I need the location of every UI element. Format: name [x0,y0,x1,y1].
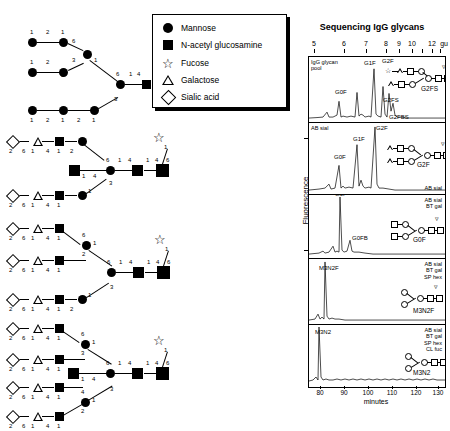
sialic-acid-residue [6,222,20,236]
x-tick-label: 80 [316,389,323,396]
sialic-acid-residue [6,254,20,268]
legend-label: N-acetyl glucosamine [181,41,262,50]
glycan-structure-4: 2 6 1 4 1 2 6 1 4 1 6 1 3 [0,314,185,430]
gu-tick-label: 8 [384,40,388,47]
gu-tick-label: 5 [312,40,316,47]
glcnac-icon [398,81,405,88]
glcnac-residue [157,266,170,279]
sialic-acid-residue [6,189,20,203]
mannose-residue [106,369,115,378]
legend-label: Mannose [181,24,216,33]
glycan-structure-2: 2 6 1 4 1 2 2 6 1 4 1 1 3 [0,126,185,210]
glcnac-icon [397,158,404,165]
gu-axis: 5 6 7 8 9 10 12 gu [308,41,444,55]
peak-label-g1f: G1F [364,60,376,66]
glcnac-icon [397,145,404,152]
x-axis: 80 90 100 110 120 130 minutes [308,386,444,406]
n-acetyl-glucosamine-icon [162,39,174,51]
x-tick-label: 130 [433,389,444,396]
glcnac-residue [132,368,143,379]
legend-item-glcnac: N-acetyl glucosamine [162,38,262,52]
glcnac-residue [142,80,151,89]
peak-label-g1f: G1F [353,136,365,142]
x-tick-label: 90 [340,389,347,396]
peak-label-g0f: G0F [334,154,346,160]
galactose-residue [33,224,43,233]
gu-tick-label: 10 [408,40,416,47]
galactose-residue [33,191,43,200]
chromatogram-title: Sequencing IgG glycans [294,22,450,32]
glcnac-residue [55,355,64,364]
glcnac-icon [436,295,443,302]
galactose-residue [33,383,43,392]
peak-label-g2fs: G2FS [383,97,399,103]
panel-igg-glycan-pool: IgG glycan pool G0F G1F G2F G2FS G2FBS ☆ [309,57,445,123]
x-axis-unit: minutes [308,398,444,405]
chromatogram-panel: Sequencing IgG glycans 5 6 7 8 9 10 12 g… [294,0,450,431]
galactose-residue [33,324,43,333]
sialic-acid-residue [6,381,20,395]
glcnac-icon [440,359,445,366]
mannose-residue [81,340,90,349]
bisecting-glcnac-residue [69,165,80,176]
mannose-residue [107,268,116,277]
glcnac-residue [55,412,64,421]
galactose-residue [33,412,43,421]
glcnac-icon [444,75,445,82]
sialic-acid-residue [6,410,20,424]
glcnac-residue [156,164,169,177]
cartoon-label: G2FS [421,85,438,92]
sialic-acid-icon [162,91,174,103]
peak-label-m3n2: M3N2 [315,329,331,335]
bisecting-glcnac-residue [68,368,79,379]
gu-tick-label: 9 [397,40,401,47]
glcnac-residue [55,191,64,200]
fucose-icon: ▿ [435,215,439,222]
panel-ab-sial-bt-gal-sp-hex-cl-fuc: AB sial BT gal SP hex CL fuc M3N2 [309,325,445,385]
fucose-icon: ▿ [434,283,438,290]
mannose-residue [28,106,37,115]
symbol-legend: Mannose N-acetyl glucosamine ☆ Fucose Ga… [152,14,287,108]
chromatogram-panels: IgG glycan pool G0F G1F G2F G2FS G2FBS ☆ [308,56,446,388]
fucose-residue: ☆ [152,131,165,144]
cartoon-label: G0F [413,236,426,243]
glcnac-residue [55,295,64,304]
glcnac-icon [407,68,414,75]
peak-label-g2f: G2F [376,125,388,131]
panel-ab-sial-bt-gal: AB sial BT gal G0F G0FB [309,195,445,259]
glycan-structures-panel: 1 2 1 6 1 2 1 3 1 1 [0,0,290,431]
glcnac-residue [133,267,144,278]
fucose-icon: ▿ [441,140,445,147]
x-tick-label: 110 [387,389,397,396]
glycan-cartoon: ▿ [387,143,443,169]
mannose-residue [28,38,37,47]
legend-item-mannose: Mannose [162,21,216,35]
galactose-icon [162,74,174,86]
fucose-icon: ☆ [162,57,174,69]
mannose-residue [83,50,92,59]
mannose-residue [59,106,68,115]
mannose-residue [59,38,68,47]
peak-label-g2fbs: G2FBS [389,114,409,120]
fucose-icon: ▿ [442,63,445,70]
sialic-acid-residue [6,353,20,367]
panel-ab-sial-bt-gal-sp-hex: AB sial BT gal SP hex M3N2F ▿ [309,259,445,325]
galactose-residue [33,137,43,146]
legend-label: Fucose [181,59,209,68]
cartoon-label: M3N2F [413,307,434,314]
galactose-residue [33,256,43,265]
glcnac-residue [55,256,64,265]
glcnac-icon [391,233,398,240]
panel-ab-sial: AB sial G0F G1F G2F [309,123,445,195]
gu-tick-label: 7 [364,40,368,47]
sialic-acid-residue [6,293,20,307]
peak-label-m3n2f: M3N2F [319,265,339,271]
fucose-residue: ☆ [152,334,165,347]
mannose-residue [82,241,91,250]
sialic-acid-residue [6,135,20,149]
glcnac-residue [55,383,64,392]
fucose-residue: ☆ [153,233,166,246]
fucose-icon: ☆ [385,67,391,74]
legend-label: Sialic acid [181,93,219,102]
gu-tick-label: 12 [428,40,436,47]
